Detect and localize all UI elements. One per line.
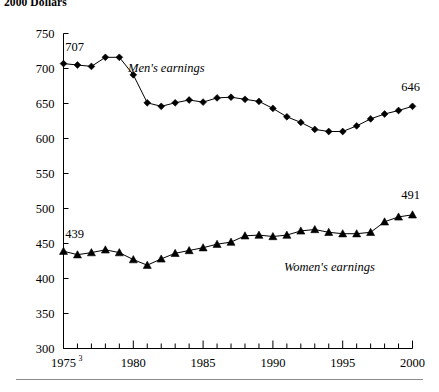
y-tick-label: 700 [36, 62, 55, 76]
y-tick-label: 450 [36, 237, 55, 251]
series-line [64, 57, 413, 131]
data-point-marker [381, 218, 389, 225]
data-point-marker [297, 119, 304, 126]
y-tick-label: 550 [36, 167, 55, 181]
data-point-marker [311, 126, 318, 133]
data-point-marker [200, 99, 207, 106]
data-point-marker [74, 62, 81, 69]
x-tick-label: 1980 [121, 356, 146, 370]
data-point-marker [214, 95, 221, 102]
data-point-marker [256, 98, 263, 105]
data-point-marker [367, 228, 375, 235]
x-axis: 1975319801985199019952000 [51, 341, 425, 370]
x-tick-label-group: 1980 [121, 356, 146, 370]
data-point-marker [227, 238, 235, 245]
y-axis-tick-marks [64, 34, 69, 349]
data-point-marker [283, 113, 290, 120]
annotation-womens-start-value: 439 [65, 227, 84, 241]
y-tick-label: 750 [36, 27, 55, 41]
x-tick-label: 2000 [400, 356, 425, 370]
data-point-marker [129, 256, 137, 263]
annotation-mens-start-value: 707 [65, 40, 84, 54]
x-tick-label-footnote: 3 [79, 354, 83, 363]
data-point-marker [270, 105, 277, 112]
chart-figure: 2000 Dollars 300350400450500550600650700… [0, 0, 439, 392]
data-point-marker [339, 128, 346, 135]
y-tick-label: 650 [36, 97, 55, 111]
data-point-marker [102, 54, 109, 61]
x-tick-label-group: 1995 [330, 356, 355, 370]
data-point-marker [228, 94, 235, 101]
series-line [64, 215, 413, 265]
data-point-marker [60, 60, 67, 67]
data-point-marker [60, 247, 68, 254]
x-axis-tick-labels: 1975319801985199019952000 [51, 354, 425, 370]
series-1 [60, 54, 416, 135]
data-point-marker [101, 246, 109, 253]
y-tick-label: 300 [36, 342, 55, 356]
x-tick-label-group: 2000 [400, 356, 425, 370]
series-label-womens: Women's earnings [284, 260, 375, 274]
y-axis: 300350400450500550600650700750 [36, 27, 69, 356]
x-tick-label-group: 19753 [51, 354, 83, 370]
data-point-marker [367, 116, 374, 123]
data-point-marker [325, 128, 332, 135]
data-point-marker [409, 211, 417, 218]
y-axis-tick-labels: 300350400450500550600650700750 [36, 27, 55, 356]
y-tick-label: 400 [36, 272, 55, 286]
data-point-marker [172, 99, 179, 106]
x-tick-label: 1975 [51, 356, 76, 370]
footer-divider [16, 379, 423, 380]
annotation-womens-end-value: 491 [401, 188, 420, 202]
annotation-mens-end-value: 646 [401, 80, 420, 94]
y-tick-label: 350 [36, 307, 55, 321]
data-point-marker [242, 96, 249, 103]
data-point-marker [143, 261, 151, 268]
data-point-marker [353, 123, 360, 130]
x-axis-tick-marks [64, 341, 413, 349]
data-point-marker [409, 103, 416, 110]
y-tick-label: 500 [36, 202, 55, 216]
x-tick-label: 1985 [191, 356, 216, 370]
data-point-marker [311, 226, 319, 233]
data-point-marker [144, 99, 151, 106]
data-point-marker [157, 255, 165, 262]
data-point-marker [186, 97, 193, 104]
data-point-marker [255, 231, 263, 238]
data-point-marker [395, 107, 402, 114]
x-tick-label: 1990 [260, 356, 285, 370]
x-tick-label-group: 1985 [191, 356, 216, 370]
x-tick-label: 1995 [330, 356, 355, 370]
line-chart-plot: 300350400450500550600650700750 197531980… [0, 0, 439, 392]
x-tick-label-group: 1990 [260, 356, 285, 370]
data-point-marker [381, 111, 388, 118]
data-point-marker [88, 63, 95, 70]
series-label-mens: Men's earnings [127, 61, 205, 75]
y-tick-label: 600 [36, 132, 55, 146]
data-series-layer [60, 54, 417, 269]
data-point-marker [158, 103, 165, 110]
